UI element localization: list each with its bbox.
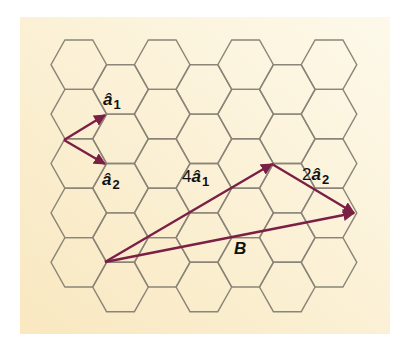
label-4a1: 4â1	[182, 168, 209, 185]
label-B: B	[234, 240, 246, 257]
label-a1-unit: â1	[103, 91, 121, 108]
label-a2-unit: â2	[102, 171, 120, 188]
label-2a2: 2â2	[302, 166, 329, 183]
